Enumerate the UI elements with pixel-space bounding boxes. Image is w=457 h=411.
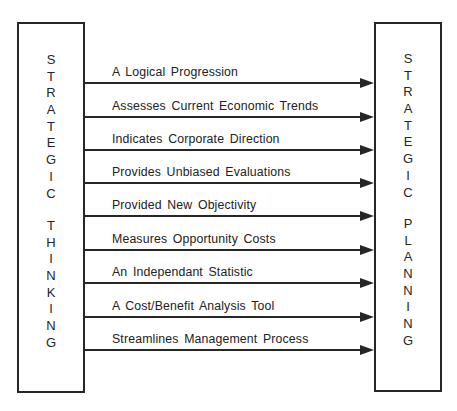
- arrow-label: Streamlines Management Process: [112, 332, 308, 346]
- letter: I: [406, 168, 410, 185]
- letter: T: [47, 119, 55, 136]
- letter: E: [47, 135, 56, 152]
- letter: G: [403, 151, 413, 168]
- letter: N: [403, 266, 412, 283]
- arrow-economic-trends: Assesses Current Economic Trends: [85, 84, 374, 118]
- letter: T: [404, 68, 412, 85]
- arrow-cost-benefit-analysis: A Cost/Benefit Analysis Tool: [85, 284, 374, 318]
- letter: S: [47, 52, 56, 69]
- left-word-strategic: S T R A T E G I C: [19, 52, 83, 202]
- letter: N: [46, 268, 55, 285]
- letter: A: [47, 102, 56, 119]
- arrow-corporate-direction: Indicates Corporate Direction: [85, 117, 374, 151]
- letter: T: [47, 218, 55, 235]
- letter: A: [404, 101, 413, 118]
- letter: K: [47, 285, 56, 302]
- arrow-unbiased-evaluations: Provides Unbiased Evaluations: [85, 150, 374, 184]
- letter: N: [403, 283, 412, 300]
- strategic-thinking-box: S T R A T E G I C T H I N K I N G: [17, 22, 85, 393]
- letter: S: [404, 51, 413, 68]
- letter: I: [49, 169, 53, 186]
- arrow-line: [85, 349, 362, 351]
- letter: I: [49, 301, 53, 318]
- left-word-thinking: T H I N K I N G: [19, 218, 83, 352]
- letter: I: [406, 299, 410, 316]
- arrow-opportunity-costs: Measures Opportunity Costs: [85, 217, 374, 251]
- arrow-new-objectivity: Provided New Objectivity: [85, 183, 374, 217]
- letter: R: [46, 85, 55, 102]
- arrow-streamlines-management: Streamlines Management Process: [85, 317, 374, 351]
- arrow-logical-progression: A Logical Progression: [85, 50, 374, 84]
- letter: T: [47, 69, 55, 86]
- letter: A: [404, 249, 413, 266]
- letter: H: [46, 235, 55, 252]
- letter: P: [404, 216, 413, 233]
- letter: L: [404, 233, 411, 250]
- arrow-label: Indicates Corporate Direction: [112, 132, 280, 146]
- right-word-strategic: S T R A T E G I C: [376, 51, 440, 201]
- arrow-label: An Independant Statistic: [112, 265, 253, 279]
- arrow-label: Provides Unbiased Evaluations: [112, 165, 291, 179]
- arrow-label: Provided New Objectivity: [112, 198, 256, 212]
- letter: N: [403, 316, 412, 333]
- letter: R: [403, 84, 412, 101]
- arrow-independant-statistic: An Independant Statistic: [85, 250, 374, 284]
- letter: C: [403, 185, 412, 202]
- letter: G: [46, 335, 56, 352]
- arrow-label: Assesses Current Economic Trends: [112, 99, 318, 113]
- letter: G: [46, 152, 56, 169]
- letter: I: [49, 251, 53, 268]
- letter: G: [403, 333, 413, 350]
- arrow-label: A Logical Progression: [112, 65, 238, 79]
- arrowhead-icon: [360, 345, 374, 355]
- arrow-label: Measures Opportunity Costs: [112, 232, 276, 246]
- strategic-planning-box: S T R A T E G I C P L A N N I N G: [374, 22, 442, 392]
- letter: N: [46, 318, 55, 335]
- letter: C: [46, 186, 55, 203]
- letter: E: [404, 134, 413, 151]
- letter: T: [404, 118, 412, 135]
- arrow-label: A Cost/Benefit Analysis Tool: [112, 299, 274, 313]
- right-word-planning: P L A N N I N G: [376, 216, 440, 350]
